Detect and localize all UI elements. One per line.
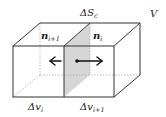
cell-right-label: Δvi+1 xyxy=(79,101,105,114)
control-volume-diagram: V ΔSc ni+1 ni Δvi Δvi+1 xyxy=(0,0,166,117)
normal-right-label: ni xyxy=(93,30,102,43)
normal-left-label: ni+1 xyxy=(41,30,60,43)
cell-left-label: Δvi xyxy=(27,101,43,114)
volume-label: V xyxy=(150,8,159,19)
normal-left-arrow xyxy=(50,57,61,65)
shared-face-label: ΔSc xyxy=(79,7,98,20)
